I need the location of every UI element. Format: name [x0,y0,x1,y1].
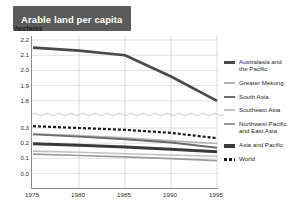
x-axis-tick-labels: 19751980198519901995 [31,191,217,203]
chart-legend: Australasia and the PacificGreater Mekon… [224,58,302,169]
legend-item[interactable]: Greater Mekong [224,79,302,86]
legend-item[interactable]: South Asia [224,93,302,100]
x-tick-label: 1975 [25,191,39,198]
y-tick-label: 0.0 [8,171,29,177]
y-tick-label: 0.1 [8,155,29,161]
legend-swatch-icon [224,144,235,147]
y-tick-label: 2.1 [8,52,29,58]
y-tick-label: 2.2 [8,37,29,43]
legend-swatch-icon [224,96,235,98]
x-tick-label: 1985 [117,191,131,198]
legend-item-label: South Asia [239,93,269,100]
y-axis-tick-labels: 2.22.12.01.91.80.30.20.10.0 [8,36,29,188]
legend-swatch-icon [224,109,235,111]
legend-item[interactable]: Northwest Pacific and East Asia [224,120,302,134]
x-tick-label: 1980 [71,191,85,198]
y-tick-label: 2.0 [8,67,29,73]
page-title: Arable land per capita [21,14,122,25]
x-tick-label: 1990 [163,191,177,198]
legend-item-label: Southeast Asia [239,106,280,113]
legend-item[interactable]: Southeast Asia [224,106,302,113]
y-tick-label: 1.9 [8,83,29,89]
y-tick-label: 0.2 [8,140,29,146]
legend-swatch-icon [224,158,235,160]
arable-land-chart: Arable land per capita hectares 2.22.12.… [0,0,304,209]
y-axis-unit-label: hectares [15,25,43,32]
legend-swatch-icon [224,123,235,125]
legend-item-label: Northwest Pacific and East Asia [239,120,287,134]
legend-item[interactable]: Australasia and the Pacific [224,58,302,72]
legend-item-label: Greater Mekong [239,79,284,86]
x-tick-label: 1995 [209,191,223,198]
legend-item[interactable]: World [224,155,302,162]
legend-item-label: World [239,155,255,162]
plot-area [31,36,218,189]
y-tick-label: 1.8 [8,98,29,104]
plot-svg [32,36,218,188]
legend-swatch-icon [224,82,235,84]
y-tick-label: 0.3 [8,125,29,131]
legend-item-label: Asia and Pacific [239,141,283,148]
legend-item-label: Australasia and the Pacific [239,58,282,72]
legend-item[interactable]: Asia and Pacific [224,141,302,148]
legend-swatch-icon [224,61,235,64]
axis-break-squiggle [32,113,224,115]
